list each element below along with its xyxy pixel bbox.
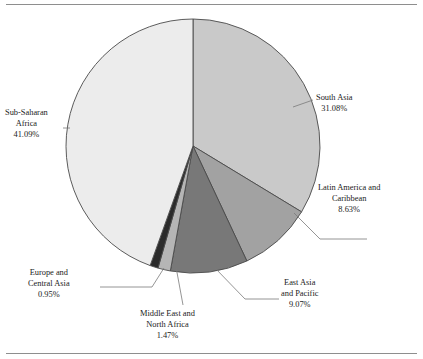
pie-label-south-asia-name: South Asia xyxy=(316,92,353,103)
pie-label-latin-america-value: 8.63% xyxy=(318,204,380,215)
pie-label-sub-saharan-name-1: Sub-Saharan xyxy=(5,107,48,118)
pie-label-europe-value: 0.95% xyxy=(28,289,70,300)
pie-label-middle-east-name-2: North Africa xyxy=(140,319,195,330)
pie-label-east-asia-name-2: and Pacific xyxy=(281,288,318,299)
pie-label-europe-central-asia: Europe and Central Asia 0.95% xyxy=(28,267,70,301)
pie-label-middle-east-value: 1.47% xyxy=(140,330,195,341)
pie-label-latin-america-name-1: Latin America and xyxy=(318,182,380,193)
pie-label-south-asia-value: 31.08% xyxy=(316,103,353,114)
pie-label-sub-saharan-name-2: Africa xyxy=(5,118,48,129)
pie-label-east-asia-name-1: East Asia xyxy=(281,277,318,288)
pie-label-middle-east-name-1: Middle East and xyxy=(140,308,195,319)
pie-chart-figure: South Asia 31.08% Latin America and Cari… xyxy=(0,0,423,359)
pie-label-sub-saharan-value: 41.09% xyxy=(5,129,48,140)
leader-line-europe xyxy=(100,268,164,287)
leader-line-east-asia xyxy=(215,268,279,299)
pie-label-middle-east: Middle East and North Africa 1.47% xyxy=(140,308,195,342)
pie-label-europe-name-2: Central Asia xyxy=(28,278,70,289)
pie-label-south-asia: South Asia 31.08% xyxy=(316,92,353,114)
pie-label-sub-saharan-africa: Sub-Saharan Africa 41.09% xyxy=(5,107,48,141)
pie-chart-svg xyxy=(0,0,423,359)
leader-line-latin-america xyxy=(294,213,367,239)
pie-label-latin-america: Latin America and Caribbean 8.63% xyxy=(318,182,380,216)
pie-label-east-asia: East Asia and Pacific 9.07% xyxy=(281,277,318,311)
figure-page: South Asia 31.08% Latin America and Cari… xyxy=(0,0,423,359)
pie-label-east-asia-value: 9.07% xyxy=(281,299,318,310)
pie-label-latin-america-name-2: Caribbean xyxy=(318,193,380,204)
pie-slice-group xyxy=(66,19,320,273)
pie-label-europe-name-1: Europe and xyxy=(28,267,70,278)
